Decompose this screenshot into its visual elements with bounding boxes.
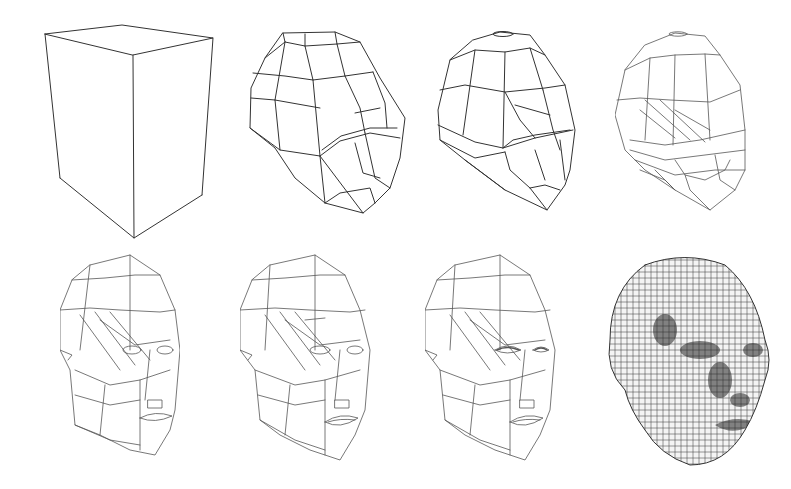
panel-head-mesh-face-loops [615,30,780,225]
box-wireframe-icon [40,20,220,245]
head-detailed-eyes-wireframe-icon [425,250,565,465]
head-detailed-mouth-wireframe-icon [240,250,380,465]
panel-refined-head-mesh [435,30,600,225]
head-eyes-nose-mouth-wireframe-icon [60,250,180,465]
panel-subdivided-dense-head-mesh [605,250,775,475]
panel-head-mesh-detailed-eyes [425,250,565,465]
panel-head-mesh-detailed-mouth [240,250,380,465]
dense-head-wireframe-icon [605,250,775,475]
panel-head-mesh-eyes-nose-mouth [60,250,180,465]
coarse-head-wireframe-icon [245,28,410,228]
face-loops-head-wireframe-icon [615,30,780,225]
panel-box-primitive [40,20,220,245]
panel-coarse-head-mesh [245,28,410,228]
refined-head-wireframe-icon [435,30,600,225]
